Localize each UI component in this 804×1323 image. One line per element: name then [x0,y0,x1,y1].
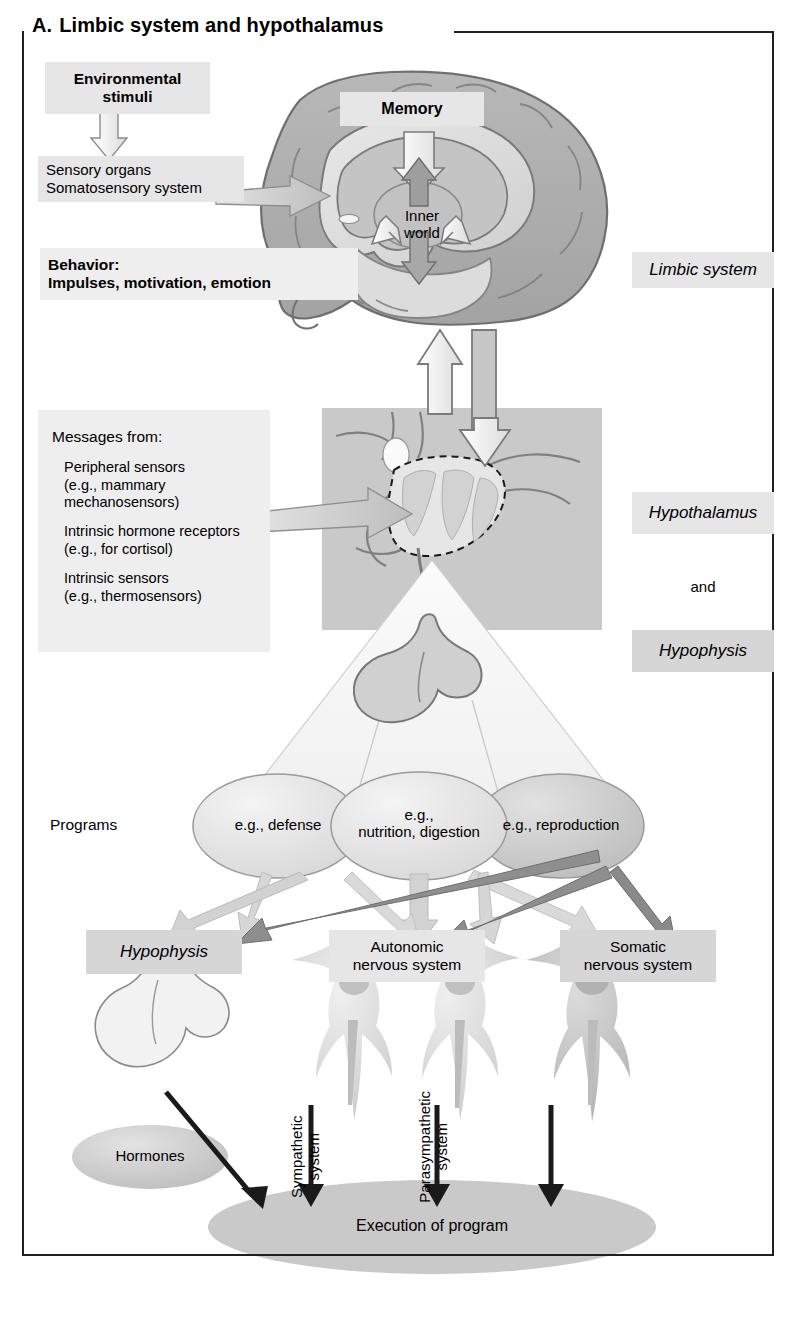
hypophysis-label-right: Hypophysis [632,630,774,672]
environmental-stimuli-box: Environmental stimuli [45,62,210,114]
program-item-reproduction: e.g., reproduction [486,816,636,833]
hypothalamus-label: Hypothalamus [632,492,774,534]
messages-item: Peripheral sensors (e.g., mammary mechan… [64,459,260,511]
figure-title-text: Limbic system and hypothalamus [59,14,383,36]
messages-heading: Messages from: [52,428,260,446]
messages-panel: Messages from: Peripheral sensors (e.g.,… [38,410,270,652]
messages-item: Intrinsic hormone receptors (e.g., for c… [64,523,260,558]
page-title: A.Limbic system and hypothalamus [32,14,383,37]
figure-letter: A. [32,14,52,36]
execution-label: Execution of program [282,1217,582,1235]
figure-page: A.Limbic system and hypothalamus Environ… [0,0,804,1323]
hormones-label: Hormones [100,1147,200,1164]
programs-label: Programs [50,816,117,834]
messages-item: Intrinsic sensors (e.g., thermosensors) [64,570,260,605]
inner-world-label: Inner world [396,208,448,241]
parasympathetic-label: Parasympathetic system [417,1052,451,1242]
output-box-hypophysis: Hypophysis [86,930,242,974]
sensory-organs-box: Sensory organs Somatosensory system [38,156,244,202]
behavior-box: Behavior: Impulses, motivation, emotion [40,248,358,300]
output-box-somatic: Somatic nervous system [560,930,716,982]
program-item-defense: e.g., defense [205,816,351,833]
program-item-nutrition: e.g., nutrition, digestion [344,806,494,841]
limbic-system-label: Limbic system [632,252,774,288]
memory-box: Memory [340,92,484,126]
and-label: and [632,578,774,595]
output-box-autonomic: Autonomic nervous system [329,930,485,982]
